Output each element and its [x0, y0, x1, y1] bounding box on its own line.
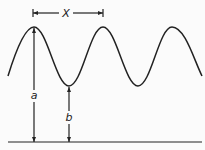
trough-height-label: b: [66, 111, 73, 124]
peak-height-line: [32, 28, 36, 142]
wavelength-label: X: [61, 7, 70, 20]
wave-diagram-svg: X a b: [0, 0, 205, 150]
sine-wave: [8, 27, 202, 86]
wave-diagram: X a b: [0, 0, 205, 150]
peak-height-label: a: [31, 89, 38, 102]
